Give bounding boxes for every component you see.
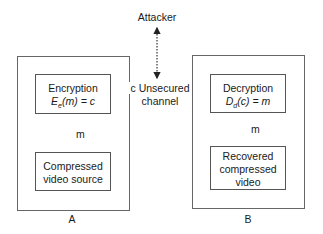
party-a-label: A	[67, 213, 77, 225]
m-label-a: m	[76, 128, 85, 140]
recovered-video-box: Recovered compressed video	[210, 146, 286, 190]
attacker-label: Attacker	[127, 11, 187, 23]
party-b-label: B	[243, 213, 253, 225]
output-line3: video	[211, 176, 285, 188]
compressed-source-box: Compressed video source	[35, 152, 111, 191]
encryption-box: Encryption Ee(m) = c	[35, 74, 111, 114]
source-line1: Compressed	[36, 160, 110, 172]
source-line2: video source	[36, 173, 110, 185]
encryption-formula: Ee(m) = c	[36, 95, 110, 112]
output-line2: compressed	[211, 163, 285, 175]
decryption-formula: Dd(c) = m	[211, 95, 285, 112]
output-line1: Recovered	[211, 150, 285, 162]
decryption-box: Decryption Dd(c) = m	[210, 74, 286, 113]
channel-label-line1: c Unsecured	[128, 82, 192, 94]
channel-label-line2: channel	[128, 95, 192, 107]
encryption-title: Encryption	[36, 82, 110, 94]
decryption-title: Decryption	[211, 82, 285, 94]
m-label-b: m	[251, 123, 260, 135]
